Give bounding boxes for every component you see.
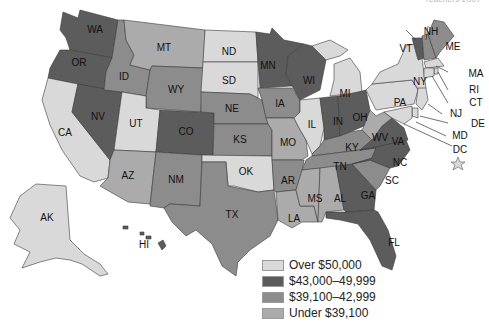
label-ne: NE xyxy=(225,103,239,114)
label-ok: OK xyxy=(239,166,254,177)
legend-item-43000-49999: $43,000–49,999 xyxy=(262,273,376,289)
label-az: AZ xyxy=(122,170,135,181)
label-tx: TX xyxy=(226,209,239,220)
label-de: DE xyxy=(471,118,485,129)
label-ct: CT xyxy=(469,97,482,108)
ct-leader-line xyxy=(432,76,448,103)
vt-leader-line xyxy=(406,30,416,40)
label-ia: IA xyxy=(275,98,285,109)
label-ri: RI xyxy=(469,84,479,95)
ri-leader-line xyxy=(438,72,448,90)
state-ak[interactable] xyxy=(10,184,108,276)
label-ak: AK xyxy=(40,212,54,223)
label-sd: SD xyxy=(222,75,236,86)
label-fl: FL xyxy=(388,237,400,248)
label-nj: NJ xyxy=(450,108,462,119)
state-ri[interactable] xyxy=(434,68,438,74)
label-wv: WV xyxy=(372,132,388,143)
label-mn: MN xyxy=(260,60,276,71)
label-in: IN xyxy=(333,116,343,127)
legend: Over $50,000 $43,000–49,999 $39,100–42,9… xyxy=(262,257,376,321)
label-pa: PA xyxy=(394,97,407,108)
label-wa: WA xyxy=(87,24,103,35)
nj-leader-line xyxy=(428,104,442,114)
label-ar: AR xyxy=(281,175,295,186)
legend-item-over-50000: Over $50,000 xyxy=(262,257,376,273)
label-co: CO xyxy=(179,126,194,137)
state-hi-island-4[interactable] xyxy=(123,226,128,229)
label-wi: WI xyxy=(303,75,315,86)
legend-label: Under $39,100 xyxy=(289,306,368,320)
label-md: MD xyxy=(452,130,468,141)
label-al: AL xyxy=(334,193,347,204)
state-de[interactable] xyxy=(412,108,418,118)
state-hi[interactable] xyxy=(158,240,166,250)
label-nh: NH xyxy=(424,26,438,37)
label-ut: UT xyxy=(129,118,142,129)
md-leader-line xyxy=(416,122,446,136)
label-wy: WY xyxy=(168,84,184,95)
label-nc: NC xyxy=(393,157,407,168)
label-ms: MS xyxy=(308,193,323,204)
legend-swatch-over-50000 xyxy=(262,260,284,271)
label-ga: GA xyxy=(361,190,376,201)
label-la: LA xyxy=(288,213,301,224)
label-nv: NV xyxy=(91,111,105,122)
label-ny: NY xyxy=(413,76,427,87)
label-ks: KS xyxy=(233,134,247,145)
label-me: ME xyxy=(446,41,461,52)
legend-label: Over $50,000 xyxy=(289,258,362,272)
legend-item-39100-42999: $39,100–42,999 xyxy=(262,289,376,305)
label-nm: NM xyxy=(168,174,184,185)
label-il: IL xyxy=(308,119,317,130)
label-oh: OH xyxy=(353,112,368,123)
label-dc: DC xyxy=(453,144,467,155)
label-ky: KY xyxy=(345,142,359,153)
legend-swatch-under-39100 xyxy=(262,308,284,319)
de-leader-line xyxy=(420,116,448,123)
label-tn: TN xyxy=(333,161,346,172)
label-id: ID xyxy=(119,71,129,82)
label-ca: CA xyxy=(58,127,72,138)
label-mi: MI xyxy=(339,88,350,99)
legend-label: $43,000–49,999 xyxy=(289,274,376,288)
legend-item-under-39100: Under $39,100 xyxy=(262,305,376,321)
label-mo: MO xyxy=(280,137,296,148)
us-map: WA OR CA NV ID MT WY UT AZ CO NM ND SD N… xyxy=(0,0,489,325)
state-nj[interactable] xyxy=(416,88,428,110)
label-mt: MT xyxy=(157,42,171,53)
state-pa[interactable] xyxy=(366,80,418,110)
legend-label: $39,100–42,999 xyxy=(289,290,376,304)
legend-swatch-43000-49999 xyxy=(262,276,284,287)
label-va: VA xyxy=(392,136,405,147)
legend-swatch-39100-42999 xyxy=(262,292,284,303)
dc-star-icon xyxy=(451,157,465,170)
label-ma: MA xyxy=(469,68,484,79)
label-or: OR xyxy=(72,57,87,68)
label-sc: SC xyxy=(385,175,399,186)
label-nd: ND xyxy=(222,46,236,57)
label-hi: HI xyxy=(139,239,149,250)
label-vt: VT xyxy=(400,43,413,54)
state-hi-island-2[interactable] xyxy=(140,232,144,235)
